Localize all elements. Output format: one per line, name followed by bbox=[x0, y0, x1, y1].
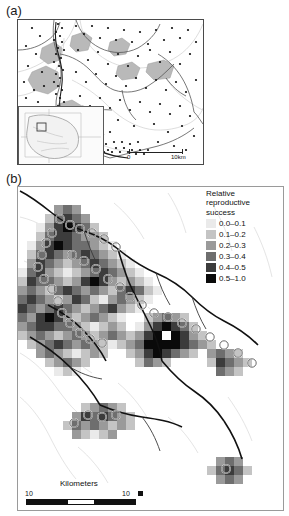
inset-basemap bbox=[19, 107, 103, 164]
legend-label: 0.1–0.2 bbox=[219, 230, 246, 239]
map-legend: Relative reproductive success 0.0–0.1 0.… bbox=[206, 189, 282, 285]
scalebar-segment bbox=[26, 499, 68, 505]
legend-label: 0.2–0.3 bbox=[219, 241, 246, 250]
legend-swatch-icon bbox=[206, 230, 216, 239]
legend-label: 0.4–0.5 bbox=[219, 263, 246, 272]
legend-title: Relative reproductive success bbox=[206, 189, 282, 217]
legend-label: 0.3–0.4 bbox=[219, 252, 246, 261]
scalebar-line bbox=[129, 152, 183, 153]
panel-a-scalebar: 0 10km bbox=[121, 148, 193, 162]
legend-swatch-icon bbox=[206, 219, 216, 228]
legend-swatch-icon bbox=[206, 241, 216, 250]
scalebar-label-left: 10 bbox=[25, 490, 33, 497]
panel-b-label: (b) bbox=[6, 172, 22, 185]
legend-title-line-3: success bbox=[206, 208, 282, 217]
scalebar-segment bbox=[94, 499, 136, 505]
panel-a-inset-map bbox=[18, 106, 104, 165]
figure-container: (a) bbox=[0, 0, 289, 516]
north-marker-icon bbox=[138, 491, 143, 496]
legend-label: 0.5–1.0 bbox=[219, 274, 246, 283]
scalebar-unit-label: Kilometers bbox=[60, 479, 98, 488]
legend-item: 0.3–0.4 bbox=[206, 252, 282, 262]
scalebar-segments bbox=[26, 499, 136, 505]
legend-swatch-icon bbox=[206, 274, 216, 283]
legend-item: 0.4–0.5 bbox=[206, 263, 282, 273]
scalebar-label-end: 10km bbox=[171, 154, 186, 160]
scalebar-segment bbox=[68, 499, 94, 505]
legend-item: 0.0–0.1 bbox=[206, 219, 282, 229]
panel-b-map: Relative reproductive success 0.0–0.1 0.… bbox=[17, 186, 284, 511]
legend-title-line-1: Relative bbox=[206, 189, 282, 198]
scalebar-label-start: 0 bbox=[127, 154, 130, 160]
legend-item: 0.2–0.3 bbox=[206, 241, 282, 251]
legend-title-line-2: reproductive bbox=[206, 198, 282, 207]
legend-swatch-icon bbox=[206, 263, 216, 272]
panel-a-label: (a) bbox=[6, 4, 22, 17]
legend-item: 0.5–1.0 bbox=[206, 274, 282, 284]
panel-b-scalebar: Kilometers 10 10 bbox=[24, 479, 146, 505]
panel-a-map: 0 10km bbox=[17, 19, 204, 165]
legend-label: 0.0–0.1 bbox=[219, 219, 246, 228]
legend-swatch-icon bbox=[206, 252, 216, 261]
legend-item: 0.1–0.2 bbox=[206, 230, 282, 240]
scalebar-label-right: 10 bbox=[122, 490, 130, 497]
